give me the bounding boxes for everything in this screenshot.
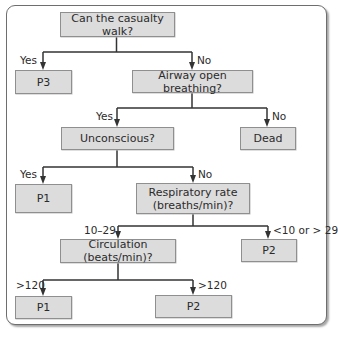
- edge-label-resp-abnormal: <10 or > 29: [273, 224, 338, 236]
- edge-label-resp-normal: 10–29: [84, 224, 116, 236]
- edge-label-airway-no: No: [272, 110, 286, 122]
- node-label: P3: [37, 76, 51, 89]
- node-p2-bottom: P2: [155, 295, 232, 318]
- edge-label-circ-right: >120: [198, 279, 227, 291]
- edge-label-walk-no: No: [197, 54, 211, 66]
- node-p3: P3: [15, 70, 72, 94]
- node-airway-open-breathing: Airway open breathing?: [132, 70, 253, 93]
- node-p2-right: P2: [241, 239, 297, 262]
- edge-label-airway-yes: Yes: [96, 110, 113, 122]
- node-label: P2: [187, 300, 201, 313]
- node-label: Unconscious?: [80, 132, 155, 145]
- connector-lines: [0, 0, 338, 340]
- node-circulation: Circulation (beats/min)?: [60, 239, 176, 263]
- node-label: P1: [37, 192, 51, 205]
- node-label: Can the casualty walk?: [61, 12, 174, 38]
- node-dead: Dead: [240, 127, 296, 150]
- node-label: Airway open breathing?: [133, 69, 252, 95]
- edge-label-unconscious-yes: Yes: [20, 168, 37, 180]
- node-respiratory-rate: Respiratory rate (breaths/min)?: [136, 183, 250, 214]
- node-p1-bottom: P1: [15, 296, 72, 319]
- node-label-line2: (breaths/min)?: [153, 199, 234, 212]
- node-label-line1: Respiratory rate: [149, 186, 238, 199]
- edge-label-walk-yes: Yes: [20, 54, 37, 66]
- node-label: P1: [37, 301, 51, 314]
- node-can-casualty-walk: Can the casualty walk?: [60, 12, 175, 37]
- edge-label-circ-left: >120: [16, 279, 45, 291]
- node-label: Dead: [254, 132, 283, 145]
- edge-label-unconscious-no: No: [198, 168, 212, 180]
- node-p1-top: P1: [15, 184, 72, 213]
- node-label: Circulation (beats/min)?: [61, 238, 175, 264]
- node-label: P2: [262, 244, 276, 257]
- node-unconscious: Unconscious?: [61, 127, 174, 150]
